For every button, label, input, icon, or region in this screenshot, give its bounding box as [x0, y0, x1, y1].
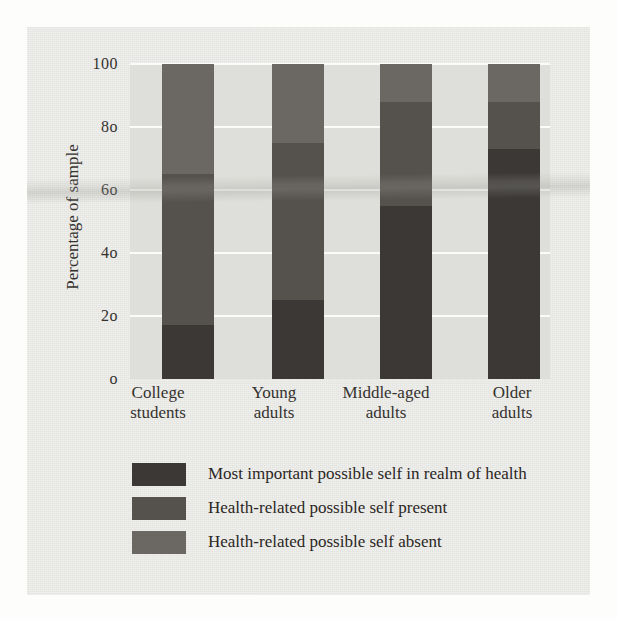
y-axis-title: Percentage of sample [63, 107, 83, 327]
bar-segment [488, 64, 540, 102]
y-tick-40: 4o [101, 244, 118, 262]
legend: Most important possible self in realm of… [132, 457, 562, 559]
y-tick-100: 100 [93, 55, 119, 73]
legend-label: Health-related possible self present [208, 498, 447, 518]
legend-label: Health-related possible self absent [208, 532, 442, 552]
x-axis: College students Young adults Middle-age… [130, 383, 550, 439]
x-tick-line1: College [102, 383, 214, 403]
y-axis: Percentage of sample 100 8o 6o 4o 2o o [27, 27, 130, 379]
x-tick-line2: adults [456, 403, 568, 423]
legend-item-most-important[interactable]: Most important possible self in realm of… [132, 457, 562, 491]
x-tick-middle-aged-adults: Middle-aged adults [322, 383, 450, 422]
x-tick-college-students: College students [102, 383, 214, 422]
bar-segment [162, 325, 214, 379]
bar-segment [162, 64, 214, 174]
legend-item-absent[interactable]: Health-related possible self absent [132, 525, 562, 559]
bar-segment [380, 102, 432, 206]
plot-area [130, 64, 550, 379]
x-tick-line2: students [102, 403, 214, 423]
bar-segment [380, 206, 432, 379]
legend-swatch-icon [132, 497, 186, 520]
legend-item-present[interactable]: Health-related possible self present [132, 491, 562, 525]
legend-swatch-icon [132, 531, 186, 554]
y-tick-60: 6o [101, 181, 118, 199]
bar-college-students[interactable] [162, 64, 214, 379]
x-tick-line2: adults [218, 403, 330, 423]
x-tick-young-adults: Young adults [218, 383, 330, 422]
bar-segment [272, 143, 324, 301]
bar-young-adults[interactable] [272, 64, 324, 379]
bar-segment [488, 149, 540, 379]
y-tick-80: 8o [101, 118, 118, 136]
bar-older-adults[interactable] [488, 64, 540, 379]
y-tick-20: 2o [101, 307, 118, 325]
bar-segment [272, 300, 324, 379]
x-tick-line1: Middle-aged [322, 383, 450, 403]
x-tick-line1: Young [218, 383, 330, 403]
bar-segment [488, 102, 540, 149]
bar-segment [380, 64, 432, 102]
bar-segment [272, 64, 324, 143]
bar-segment [162, 174, 214, 325]
legend-swatch-icon [132, 463, 186, 486]
figure-panel: Percentage of sample 100 8o 6o 4o 2o o C… [27, 27, 590, 595]
bar-middle-aged-adults[interactable] [380, 64, 432, 379]
x-tick-line1: Older [456, 383, 568, 403]
x-tick-older-adults: Older adults [456, 383, 568, 422]
x-tick-line2: adults [322, 403, 450, 423]
legend-label: Most important possible self in realm of… [208, 464, 527, 484]
